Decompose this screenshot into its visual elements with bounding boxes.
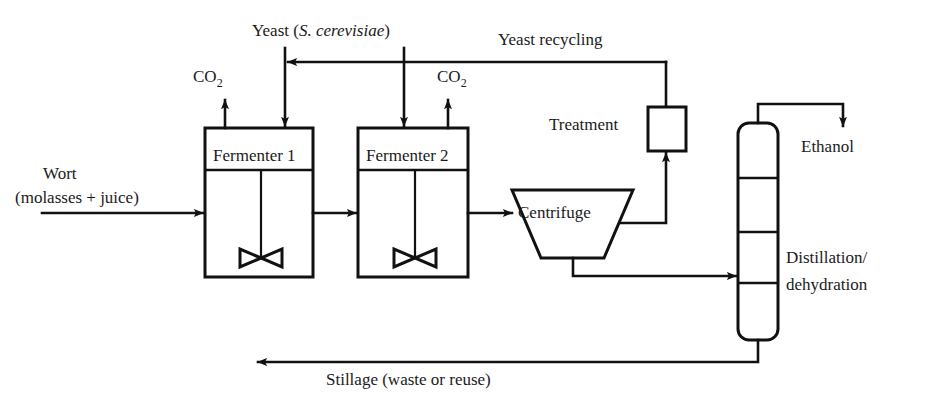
centrifuge-unit[interactable]: Centrifuge (512, 190, 633, 258)
column-label-line2: dehydration (786, 275, 868, 294)
yeast-recycling-stream: Yeast recycling (288, 30, 666, 107)
co2-vent-2-label: CO2 (437, 67, 467, 90)
centrifuge-to-treatment-line (620, 153, 666, 223)
co2-vent-2-stream: CO2 (437, 67, 467, 128)
wort-feed-stream: Wort (molasses + juice) (15, 164, 203, 213)
fermenter-2-label: Fermenter 2 (366, 146, 449, 165)
fermenter-2-unit[interactable]: Fermenter 2 (358, 128, 468, 277)
yeast-recycling-label: Yeast recycling (498, 30, 603, 49)
centrifuge-label: Centrifuge (518, 203, 591, 222)
treatment-vessel[interactable] (648, 107, 686, 151)
column-label-line1: Distillation/ (786, 248, 868, 267)
centrifuge-to-column-line (573, 258, 736, 276)
wort-label-line2: (molasses + juice) (15, 188, 139, 207)
stillage-label: Stillage (waste or reuse) (326, 370, 491, 389)
fermenter-1-label: Fermenter 1 (213, 146, 296, 165)
stillage-stream: Stillage (waste or reuse) (258, 340, 758, 389)
ethanol-label: Ethanol (801, 137, 854, 156)
centrifuge-vessel[interactable] (512, 190, 633, 258)
wort-label-line1: Wort (43, 164, 77, 183)
co2-vent-1-label: CO2 (193, 67, 223, 90)
stillage-line (258, 340, 758, 362)
fermenter-1-unit[interactable]: Fermenter 1 (205, 128, 313, 277)
yeast-label: Yeast (S. cerevisiae) (252, 21, 390, 40)
process-flow-diagram: Wort (molasses + juice) Fermenter 1 CO2 … (0, 0, 931, 409)
diagram-canvas: Wort (molasses + juice) Fermenter 1 CO2 … (0, 0, 931, 409)
yeast-feed-streams: Yeast (S. cerevisiae) (252, 21, 404, 126)
co2-vent-1-stream: CO2 (193, 67, 225, 128)
centrifuge-to-column-stream (573, 258, 736, 276)
centrifuge-to-treatment-stream (620, 153, 666, 223)
treatment-label: Treatment (549, 115, 619, 134)
treatment-unit[interactable]: Treatment (549, 107, 686, 151)
